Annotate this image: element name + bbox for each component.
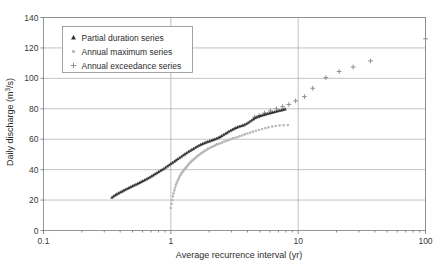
data-point-annual-maximum [216, 144, 218, 146]
data-point-annual-maximum [225, 140, 227, 142]
data-point-annual-maximum [258, 129, 260, 131]
data-point-annual-maximum [172, 196, 174, 198]
data-point-annual-maximum [236, 136, 238, 138]
data-point-annual-maximum [228, 139, 230, 141]
y-tick-label: 80 [29, 104, 39, 114]
data-point-annual-maximum [283, 124, 285, 126]
data-point-annual-maximum [252, 131, 254, 133]
x-axis-title: Average recurrence interval (yr) [176, 250, 302, 260]
data-point-annual-maximum [223, 141, 225, 143]
data-point-annual-maximum [230, 138, 232, 140]
data-point-annual-maximum [232, 138, 234, 140]
legend-marker-square [72, 50, 75, 53]
data-point-annual-maximum [268, 126, 270, 128]
chart-legend: Partial duration seriesAnnual maximum se… [63, 27, 193, 73]
data-point-annual-maximum [255, 130, 257, 132]
data-point-annual-maximum [287, 124, 289, 126]
data-point-annual-maximum [221, 141, 223, 143]
data-point-annual-maximum [171, 203, 173, 205]
x-tick-label: 0.1 [38, 236, 50, 246]
data-point-annual-maximum [176, 182, 178, 184]
data-point-annual-maximum [234, 137, 236, 139]
legend-label: Annual maximum series [82, 47, 173, 57]
data-point-annual-maximum [247, 133, 249, 135]
data-point-annual-maximum [174, 187, 176, 189]
x-axis-title-label: Average recurrence interval (yr) [176, 250, 302, 260]
y-tick-label: 120 [24, 43, 38, 53]
data-point-annual-maximum [279, 125, 281, 127]
data-point-annual-maximum [214, 145, 216, 147]
x-tick-label: 1 [168, 236, 173, 246]
data-point-annual-maximum [244, 134, 246, 136]
data-point-annual-maximum [171, 199, 173, 201]
y-tick-label: 0 [34, 226, 39, 236]
y-tick-label: 140 [24, 13, 38, 23]
data-point-annual-maximum [239, 135, 241, 137]
y-tick-label: 40 [29, 165, 39, 175]
x-tick-label: 10 [293, 236, 303, 246]
y-tick-label: 20 [29, 195, 39, 205]
data-point-annual-maximum [170, 207, 172, 209]
legend-label: Partial duration series [82, 33, 164, 43]
data-point-annual-maximum [218, 143, 220, 145]
data-point-annual-maximum [176, 180, 178, 182]
data-point-annual-maximum [173, 192, 175, 194]
legend-label: Annual exceedance series [82, 61, 182, 71]
data-point-annual-maximum [261, 128, 263, 130]
data-point-annual-maximum [271, 126, 273, 128]
data-point-annual-maximum [249, 132, 251, 134]
data-point-annual-maximum [220, 142, 222, 144]
chart-container: 0.1110100 020406080100120140 Average rec… [0, 0, 439, 268]
data-point-annual-maximum [275, 125, 277, 127]
data-point-annual-maximum [173, 190, 175, 192]
data-point-annual-maximum [264, 127, 266, 129]
data-point-annual-maximum [241, 134, 243, 136]
y-tick-label: 60 [29, 134, 39, 144]
x-tick-label: 100 [418, 236, 432, 246]
y-tick-label: 100 [24, 73, 38, 83]
data-point-annual-maximum [175, 185, 177, 187]
chart-svg: 0.1110100 020406080100120140 Average rec… [0, 0, 439, 268]
